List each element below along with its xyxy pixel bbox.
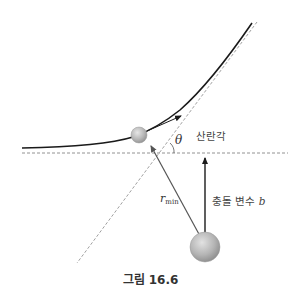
figure-caption: 그림 16.6 — [0, 270, 301, 287]
target-particle — [190, 232, 220, 262]
theta-angle-arc — [170, 143, 174, 153]
scattered-particle — [131, 127, 147, 143]
r-min-line — [151, 146, 200, 236]
velocity-arrow — [147, 116, 181, 131]
scattering-angle-label: 산란각 — [196, 128, 226, 143]
r-min-subscript: min — [165, 198, 178, 206]
impact-parameter-symbol: b — [259, 195, 266, 207]
impact-parameter-label: 충돌 변수 b — [212, 193, 265, 208]
r-min-label: rmin — [160, 192, 179, 206]
scattering-diagram — [0, 0, 301, 287]
impact-parameter-text: 충돌 변수 — [212, 195, 255, 207]
theta-label: θ — [175, 133, 182, 147]
